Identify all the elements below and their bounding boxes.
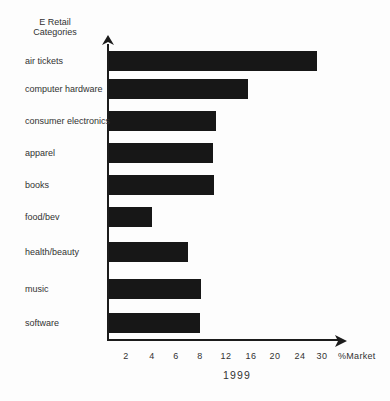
x-axis-line <box>107 339 338 341</box>
bar-music <box>109 279 201 299</box>
category-label: apparel <box>25 148 55 158</box>
chart-canvas: E Retail Categories air ticketscomputer … <box>0 0 390 401</box>
chart-title: E Retail Categories <box>24 17 86 37</box>
x-tick-label: 4 <box>149 351 155 361</box>
bar-health-beauty <box>109 242 188 262</box>
bar-consumer-electronics <box>109 111 216 131</box>
x-tick-label: 30 <box>316 351 327 361</box>
category-label: books <box>25 180 49 190</box>
chart-title-line2: Categories <box>24 27 86 37</box>
bar-software <box>109 313 200 333</box>
category-label: air tickets <box>25 56 63 66</box>
bar-books <box>109 175 214 195</box>
x-tick-label: 8 <box>197 351 203 361</box>
category-label: health/beauty <box>25 247 79 257</box>
y-axis-arrowhead-icon <box>101 35 115 46</box>
bar-food-bev <box>109 207 152 227</box>
bar-air-tickets <box>109 51 317 71</box>
category-label: computer hardware <box>25 84 103 94</box>
x-axis-period-label: 1999 <box>223 369 251 381</box>
category-label: consumer electronics <box>25 116 110 126</box>
x-tick-label: 12 <box>220 351 231 361</box>
x-axis-unit-label: %Market <box>338 351 376 361</box>
chart-title-line1: E Retail <box>24 17 86 27</box>
category-label: music <box>25 284 49 294</box>
bar-computer-hardware <box>109 79 248 99</box>
category-label: food/bev <box>25 212 60 222</box>
x-tick-label: 2 <box>123 351 129 361</box>
x-tick-label: 20 <box>269 351 280 361</box>
x-tick-label: 16 <box>245 351 256 361</box>
bar-apparel <box>109 143 213 163</box>
x-axis-arrowhead-icon <box>335 334 348 348</box>
x-tick-label: 6 <box>173 351 179 361</box>
x-tick-label: 24 <box>294 351 305 361</box>
category-label: software <box>25 318 59 328</box>
